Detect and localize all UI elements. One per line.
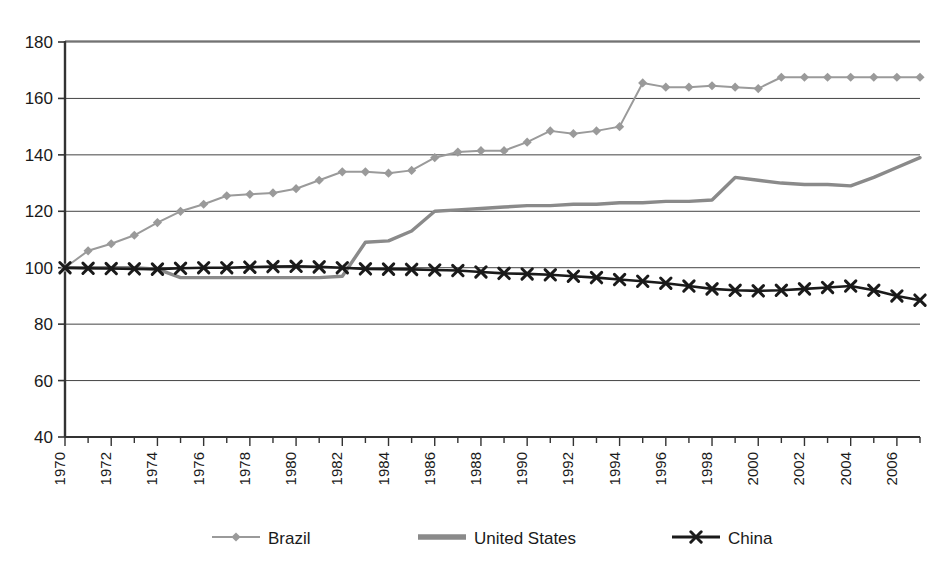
y-tick-label: 180 — [25, 33, 53, 52]
x-tick-label: 1998 — [698, 452, 715, 485]
line-chart: 180160140120100806040 197019721974197619… — [0, 0, 940, 572]
x-tick-label: 1972 — [97, 452, 114, 485]
x-tick-label: 1990 — [513, 452, 530, 485]
x-tick-label: 1984 — [375, 452, 392, 485]
legend-label: Brazil — [268, 529, 311, 548]
x-tick-label: 1988 — [467, 452, 484, 485]
y-tick-label: 140 — [25, 146, 53, 165]
y-tick-label: 120 — [25, 202, 53, 221]
y-tick-label: 100 — [25, 259, 53, 278]
x-tick-label: 1994 — [606, 452, 623, 485]
chart-page: 180160140120100806040 197019721974197619… — [0, 0, 940, 572]
x-tick-label: 1976 — [190, 452, 207, 485]
y-tick-label: 160 — [25, 89, 53, 108]
x-tick-label: 2006 — [883, 452, 900, 485]
x-tick-label: 1978 — [236, 452, 253, 485]
x-tick-label: 1992 — [559, 452, 576, 485]
legend-label: United States — [474, 529, 576, 548]
x-tick-label: 1986 — [421, 452, 438, 485]
x-tick-label: 1982 — [328, 452, 345, 485]
x-tick-label: 2002 — [790, 452, 807, 485]
x-tick-label: 1974 — [143, 452, 160, 485]
legend-label: China — [728, 529, 773, 548]
x-tick-label: 2004 — [837, 452, 854, 485]
y-tick-label: 60 — [34, 372, 53, 391]
x-tick-label: 1970 — [51, 452, 68, 485]
x-tick-label: 2000 — [744, 452, 761, 485]
y-tick-label: 40 — [34, 428, 53, 447]
y-tick-label: 80 — [34, 315, 53, 334]
x-tick-label: 1980 — [282, 452, 299, 485]
x-tick-label: 1996 — [652, 452, 669, 485]
